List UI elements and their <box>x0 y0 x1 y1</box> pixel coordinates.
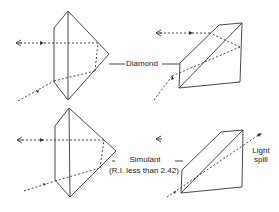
simulant-label: Simulant <box>115 155 175 164</box>
eye-icon <box>17 137 23 143</box>
diamond-label: Diamond <box>125 59 159 68</box>
light-spill-label: Light spill <box>245 146 277 164</box>
diamond-angled-ray <box>154 33 240 100</box>
eye-icon <box>156 30 162 36</box>
simulant-angled-ray <box>167 134 260 197</box>
diamond-side-ray <box>18 43 98 101</box>
simulant-note: (R.I. less than 2.42) <box>108 166 180 175</box>
simulant-side-ray <box>20 140 104 191</box>
simulant-side-gem <box>55 108 116 197</box>
eye-icon <box>156 136 162 142</box>
light-spill-line1: Light <box>246 146 276 155</box>
simulant-angled-gem <box>181 130 243 193</box>
diagram-canvas <box>0 0 279 212</box>
light-spill-line2: spill <box>246 155 276 164</box>
diamond-side-gem <box>54 11 109 100</box>
eye-icon <box>16 40 22 46</box>
simulant-title: Simulant <box>116 155 174 164</box>
